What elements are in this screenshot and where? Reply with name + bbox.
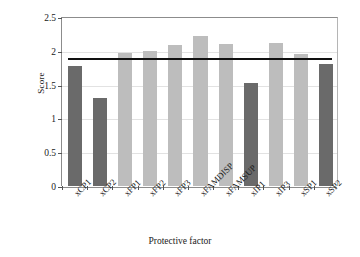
- y-tick-label: 0.5: [44, 148, 56, 158]
- bar-xfp3: [168, 45, 182, 186]
- bar-xsp2: [319, 64, 333, 186]
- plot-area: 00.511.522.5: [61, 17, 338, 186]
- reference-line: [68, 58, 332, 61]
- x-tick-mark: [62, 186, 63, 190]
- y-tick-label: 1: [51, 114, 56, 124]
- bar-xfp1: [118, 53, 132, 186]
- bar-xip3: [269, 43, 283, 186]
- y-tick-label: 2.5: [44, 13, 56, 23]
- x-axis-title: Protective factor: [0, 236, 360, 246]
- bar-xfp2: [143, 51, 157, 186]
- bar-xsp1: [294, 54, 308, 186]
- y-tick-label: 1.5: [44, 81, 56, 91]
- bar-chart-figure: Score 00.511.522.5 xCP1xCP2xFP1xFP2xFP3x…: [0, 0, 360, 257]
- bar-xcp2: [93, 98, 107, 186]
- y-tick-label: 2: [51, 47, 56, 57]
- y-tick-label: 0: [51, 182, 56, 192]
- bar-xcp1: [68, 66, 82, 186]
- bar-series: [62, 18, 337, 186]
